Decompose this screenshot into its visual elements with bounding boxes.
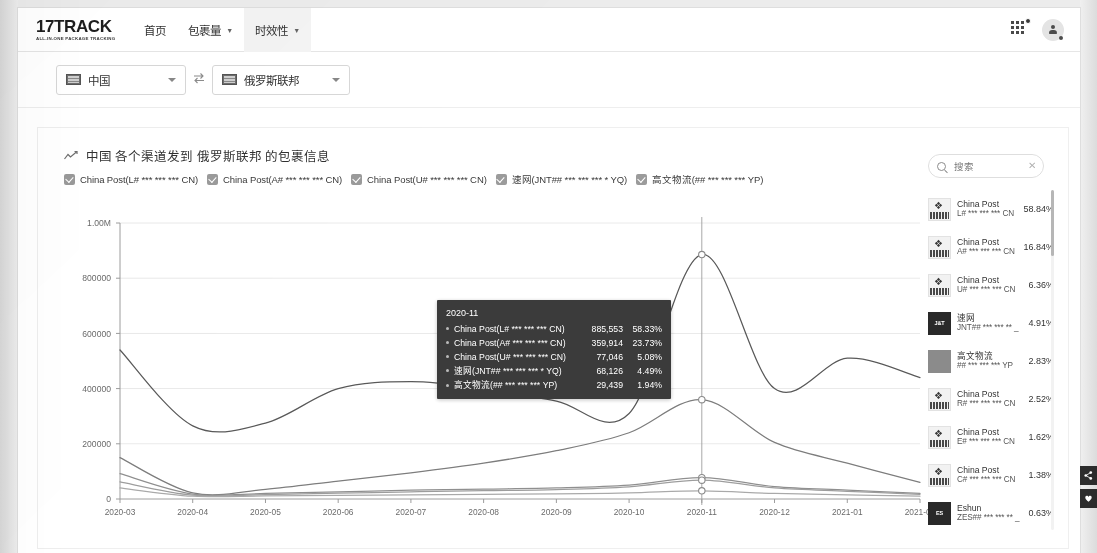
search-icon <box>937 162 946 171</box>
checkbox-icon[interactable] <box>636 174 647 185</box>
carrier-list-item[interactable]: 高文物流## *** *** *** YP2.83% <box>928 342 1054 380</box>
carrier-meta: 高文物流## *** *** *** YP <box>957 351 1018 372</box>
destination-country-select[interactable]: 俄罗斯联邦 <box>212 65 350 95</box>
trend-line-icon <box>64 151 78 161</box>
carrier-code: U# *** *** *** CN <box>957 285 1018 295</box>
sidebar-scrollbar[interactable] <box>1051 190 1054 530</box>
checkbox-icon[interactable] <box>207 174 218 185</box>
page-edge-left <box>0 0 18 553</box>
tooltip-value-0: 885,553 <box>579 322 623 336</box>
tooltip-pct-1: 23.73% <box>628 336 662 350</box>
series-dot-icon <box>446 384 449 387</box>
chart-card: 中国 各个渠道发到 俄罗斯联邦 的包裹信息 China Post(L# *** … <box>38 128 1068 548</box>
svg-text:2020-10: 2020-10 <box>614 507 645 517</box>
carrier-meta: China PostC# *** *** *** CN <box>957 465 1018 486</box>
carrier-list-item[interactable]: ❖China PostE# *** *** *** CN1.62% <box>928 418 1054 456</box>
series-dot-icon <box>446 355 449 358</box>
destination-country-label: 俄罗斯联邦 <box>244 72 299 88</box>
svg-text:600000: 600000 <box>82 329 111 339</box>
nav-item-parcel-volume[interactable]: 包裹量 ▼ <box>177 8 244 52</box>
legend-item-2[interactable]: China Post(U# *** *** *** CN) <box>351 174 487 185</box>
page-title-text: 中国 各个渠道发到 俄罗斯联邦 的包裹信息 <box>86 146 330 165</box>
carrier-percentage: 6.36% <box>1024 280 1054 290</box>
carrier-logo-icon: ❖ <box>928 464 951 487</box>
carrier-percentage: 58.84% <box>1023 204 1054 214</box>
tooltip-pct-2: 5.08% <box>628 350 662 364</box>
chart-data-point <box>699 488 705 494</box>
carrier-name: 速网 <box>957 313 1018 324</box>
carrier-code: R# *** *** *** CN <box>957 399 1018 409</box>
carrier-percentage: 1.38% <box>1024 470 1054 480</box>
carrier-percentage: 1.62% <box>1024 432 1054 442</box>
origin-country-label: 中国 <box>88 72 110 88</box>
carrier-meta: China PostR# *** *** *** CN <box>957 389 1018 410</box>
legend-label-2: China Post(U# *** *** *** CN) <box>367 174 487 185</box>
carrier-logo-icon: ❖ <box>928 274 951 297</box>
carrier-side-panel: ✕ ❖China PostL# *** *** *** CN58.84%❖Chi… <box>928 154 1054 530</box>
carrier-list: ❖China PostL# *** *** *** CN58.84%❖China… <box>928 190 1054 530</box>
carrier-list-item[interactable]: ESEshunZES## *** *** ** _0.63% <box>928 494 1054 530</box>
carrier-list-item[interactable]: ❖China PostU# *** *** *** CN6.36% <box>928 266 1054 304</box>
swap-arrows-icon[interactable] <box>186 72 212 87</box>
legend-item-1[interactable]: China Post(A# *** *** *** CN) <box>207 174 342 185</box>
carrier-logo-icon: ❖ <box>928 198 951 221</box>
nav-item-timeliness[interactable]: 时效性 ▼ <box>244 8 311 52</box>
checkbox-icon[interactable] <box>64 174 75 185</box>
carrier-name: China Post <box>957 199 1017 210</box>
search-input[interactable] <box>952 160 1022 173</box>
legend-item-3[interactable]: 速网(JNT## *** *** *** * YQ) <box>496 172 627 186</box>
tooltip-name-4: 高文物流(## *** *** *** YP) <box>454 378 574 392</box>
user-avatar-icon[interactable] <box>1042 19 1064 41</box>
site-logo[interactable]: 17TRACK ALL-IN-ONE PACKAGE TRACKING <box>36 18 115 41</box>
legend-item-0[interactable]: China Post(L# *** *** *** CN) <box>64 174 198 185</box>
carrier-list-item[interactable]: J&T速网JNT## *** *** ** _4.91% <box>928 304 1054 342</box>
carrier-list-item[interactable]: ❖China PostL# *** *** *** CN58.84% <box>928 190 1054 228</box>
svg-text:2020-12: 2020-12 <box>759 507 790 517</box>
carrier-list-item[interactable]: ❖China PostR# *** *** *** CN2.52% <box>928 380 1054 418</box>
tooltip-name-2: China Post(U# *** *** *** CN) <box>454 350 574 364</box>
tooltip-pct-0: 58.33% <box>628 322 662 336</box>
checkbox-icon[interactable] <box>351 174 362 185</box>
carrier-logo-icon: ❖ <box>928 388 951 411</box>
favorite-button[interactable] <box>1080 489 1097 508</box>
carrier-name: China Post <box>957 465 1018 476</box>
carrier-list-item[interactable]: ❖China PostA# *** *** *** CN16.84% <box>928 228 1054 266</box>
tooltip-value-3: 68,126 <box>579 364 623 378</box>
svg-text:2020-07: 2020-07 <box>396 507 427 517</box>
carrier-name: 高文物流 <box>957 351 1018 362</box>
chart-data-point <box>699 396 705 402</box>
chevron-down-icon: ▼ <box>226 27 233 34</box>
logo-tagline: ALL-IN-ONE PACKAGE TRACKING <box>36 37 115 41</box>
carrier-list-item[interactable]: ❖China PostC# *** *** *** CN1.38% <box>928 456 1054 494</box>
chevron-down-icon <box>168 78 176 82</box>
filter-bar: 中国 俄罗斯联邦 <box>18 52 1080 108</box>
tooltip-pct-3: 4.49% <box>628 364 662 378</box>
svg-text:2020-09: 2020-09 <box>541 507 572 517</box>
close-icon[interactable]: ✕ <box>1028 161 1036 171</box>
svg-text:800000: 800000 <box>82 273 111 283</box>
legend-label-3: 速网(JNT## *** *** *** * YQ) <box>512 172 627 186</box>
legend-item-4[interactable]: 高文物流(## *** *** *** YP) <box>636 172 763 186</box>
checkbox-icon[interactable] <box>496 174 507 185</box>
tooltip-name-3: 速网(JNT## *** *** *** * YQ) <box>454 364 574 378</box>
flag-icon <box>66 74 81 85</box>
tooltip-row-3: 速网(JNT## *** *** *** * YQ) 68,126 4.49% <box>446 364 662 378</box>
tooltip-date: 2020-11 <box>446 306 662 321</box>
search-box[interactable]: ✕ <box>928 154 1044 178</box>
tooltip-name-1: China Post(A# *** *** *** CN) <box>454 336 574 350</box>
carrier-logo-icon: ❖ <box>928 236 951 259</box>
carrier-logo-icon: ❖ <box>928 426 951 449</box>
share-button[interactable] <box>1080 466 1097 485</box>
chevron-down-icon: ▼ <box>293 27 300 34</box>
nav-item-home[interactable]: 首页 <box>133 8 177 52</box>
share-icon <box>1084 471 1093 480</box>
carrier-code: ZES## *** *** ** _ <box>957 513 1018 523</box>
svg-text:2020-06: 2020-06 <box>323 507 354 517</box>
origin-country-select[interactable]: 中国 <box>56 65 186 95</box>
carrier-code: ## *** *** *** YP <box>957 361 1018 371</box>
apps-grid-icon[interactable] <box>1011 21 1028 38</box>
carrier-percentage: 2.83% <box>1024 356 1054 366</box>
topbar-right-actions <box>1011 19 1064 41</box>
legend-label-1: China Post(A# *** *** *** CN) <box>223 174 342 185</box>
svg-text:200000: 200000 <box>82 439 111 449</box>
